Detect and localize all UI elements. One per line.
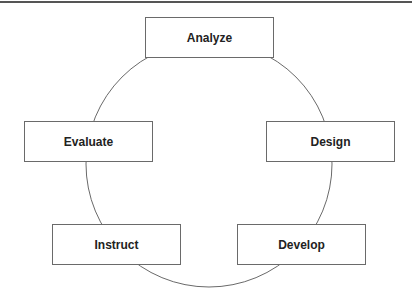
stage-label: Develop — [278, 238, 325, 252]
stage-design: Design — [266, 121, 395, 162]
stage-label: Analyze — [187, 31, 232, 45]
stage-label: Design — [310, 135, 350, 149]
stage-analyze: Analyze — [145, 17, 274, 58]
stage-label: Evaluate — [64, 135, 113, 149]
stage-instruct: Instruct — [52, 224, 181, 265]
stage-evaluate: Evaluate — [24, 121, 153, 162]
stage-develop: Develop — [237, 224, 366, 265]
stage-label: Instruct — [94, 238, 138, 252]
